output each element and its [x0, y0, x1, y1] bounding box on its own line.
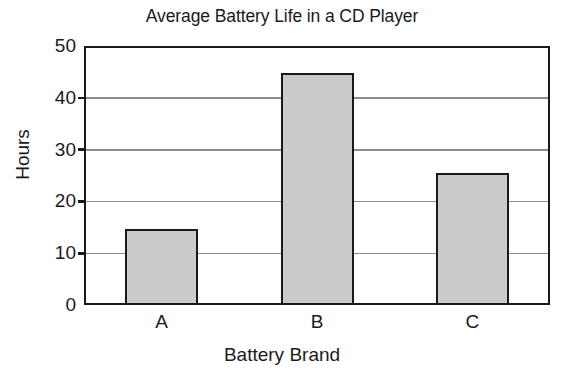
y-tick-label: 20 — [30, 191, 76, 210]
y-tick-label: 40 — [30, 88, 76, 107]
y-axis-title: Hours — [13, 100, 32, 210]
x-tick-label: A — [102, 312, 222, 332]
y-tick-label: 10 — [30, 243, 76, 262]
y-tick-mark — [78, 200, 85, 203]
gridline — [86, 253, 548, 255]
chart-title: Average Battery Life in a CD Player — [0, 6, 564, 27]
bar-chart: Average Battery Life in a CD Player 0102… — [0, 0, 564, 377]
gridlines — [86, 48, 548, 303]
gridline — [86, 149, 548, 151]
x-tick-label: C — [412, 312, 532, 332]
y-tick-mark — [78, 148, 85, 151]
x-axis-title: Battery Brand — [0, 345, 564, 365]
y-tick-label: 30 — [30, 140, 76, 159]
y-tick-label: 0 — [30, 295, 76, 314]
gridline — [86, 201, 548, 203]
y-tick-label: 50 — [30, 36, 76, 55]
y-tick-mark — [78, 97, 85, 100]
x-tick-label: B — [257, 312, 377, 332]
plot-area — [84, 46, 550, 305]
gridline — [86, 97, 548, 99]
y-tick-mark — [78, 252, 85, 255]
